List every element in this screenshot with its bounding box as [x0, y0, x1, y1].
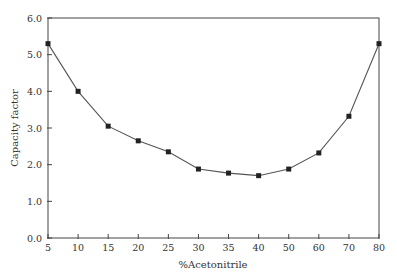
data-point-marker: [196, 167, 201, 172]
data-point-marker: [136, 138, 141, 143]
data-point-marker: [106, 124, 111, 129]
x-tick-label: 15: [102, 242, 114, 253]
x-tick-label: 30: [192, 242, 204, 253]
data-point-marker: [76, 89, 81, 94]
y-tick-label: 3.0: [27, 123, 42, 134]
data-point-marker: [166, 149, 171, 154]
data-point-marker: [226, 171, 231, 176]
data-series: [46, 41, 382, 178]
data-point-marker: [286, 167, 291, 172]
y-tick-label: 4.0: [27, 86, 42, 97]
data-point-marker: [346, 114, 351, 119]
x-tick-label: 70: [343, 242, 355, 253]
y-tick-label: 1.0: [27, 196, 42, 207]
line-chart: 0.01.02.03.04.05.06.0 510152025303540506…: [0, 0, 397, 278]
data-point-marker: [377, 41, 382, 46]
y-tick-label: 6.0: [27, 13, 42, 24]
series-line: [48, 44, 379, 176]
x-tick-label: 40: [253, 242, 265, 253]
y-tick-label: 2.0: [27, 159, 42, 170]
x-tick-label: 60: [313, 242, 325, 253]
x-tick-label: 5: [45, 242, 51, 253]
x-tick-label: 80: [373, 242, 385, 253]
y-tick-label: 0.0: [27, 233, 42, 244]
x-tick-label: 50: [283, 242, 295, 253]
data-point-marker: [316, 150, 321, 155]
x-axis-title: %Acetonitrile: [178, 259, 247, 270]
data-point-marker: [46, 41, 51, 46]
x-tick-label: 10: [72, 242, 84, 253]
y-tick-label: 5.0: [27, 49, 42, 60]
x-tick-label: 35: [222, 242, 234, 253]
x-tick-label: 20: [132, 242, 144, 253]
x-tick-label: 25: [162, 242, 174, 253]
x-axis-ticks: 51015202530354050607080: [45, 234, 385, 253]
data-point-marker: [256, 173, 261, 178]
y-axis-title: Capacity factor: [9, 89, 20, 167]
plot-frame: [48, 18, 379, 238]
